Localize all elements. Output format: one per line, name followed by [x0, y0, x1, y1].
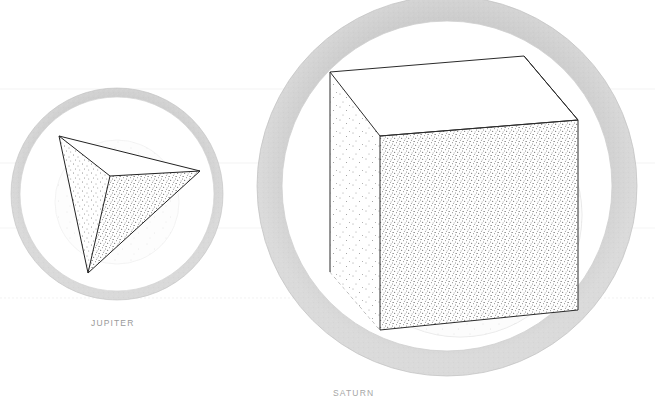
diagram-canvas — [0, 0, 655, 397]
saturn-cube-front-face — [380, 120, 578, 330]
orbital-diagram-svg — [0, 0, 655, 397]
label-jupiter: JUPITER — [91, 318, 134, 328]
saturn-body — [257, 0, 637, 376]
jupiter-body — [11, 88, 223, 300]
label-saturn: SATURN — [333, 388, 374, 397]
